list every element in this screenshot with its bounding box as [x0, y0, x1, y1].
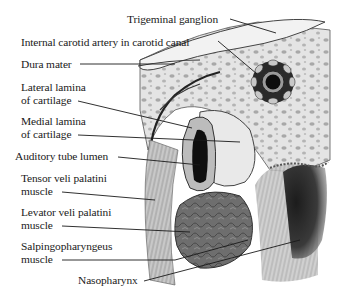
label-text: Lateral lamina [21, 81, 86, 94]
label-salpingopharyngeus: Salpingopharyngeus muscle [21, 240, 112, 266]
label-auditory-tube-lumen: Auditory tube lumen [15, 150, 108, 163]
label-text: Trigeminal ganglion [127, 13, 218, 25]
label-levator-veli-palatini: Levator veli palatini muscle [21, 206, 111, 232]
carotid-artery-shape [251, 60, 295, 104]
label-text: Medial lamina [21, 115, 86, 128]
label-internal-carotid-artery: Internal carotid artery in carotid canal [21, 36, 189, 49]
label-text: of cartilage [21, 128, 86, 141]
label-medial-lamina: Medial lamina of cartilage [21, 115, 86, 141]
label-text: Nasopharynx [78, 274, 138, 286]
label-text: Tensor veli palatini [21, 172, 107, 185]
auditory-tube-lumen-shape [192, 130, 208, 183]
label-text: Internal carotid artery in carotid canal [21, 36, 189, 48]
label-text: muscle [21, 185, 107, 198]
tensor-veli-palatini-shape [145, 140, 178, 285]
label-text: Dura mater [21, 58, 72, 70]
label-text: Salpingopharyngeus [21, 240, 112, 253]
label-text: Levator veli palatini [21, 206, 111, 219]
label-trigeminal-ganglion: Trigeminal ganglion [127, 13, 218, 26]
label-text: muscle [21, 253, 112, 266]
label-text: muscle [21, 219, 111, 232]
label-nasopharynx: Nasopharynx [78, 274, 138, 287]
label-text: Auditory tube lumen [15, 150, 108, 162]
label-text: of cartilage [21, 94, 86, 107]
label-tensor-veli-palatini: Tensor veli palatini muscle [21, 172, 107, 198]
label-lateral-lamina: Lateral lamina of cartilage [21, 81, 86, 107]
label-dura-mater: Dura mater [21, 58, 72, 71]
